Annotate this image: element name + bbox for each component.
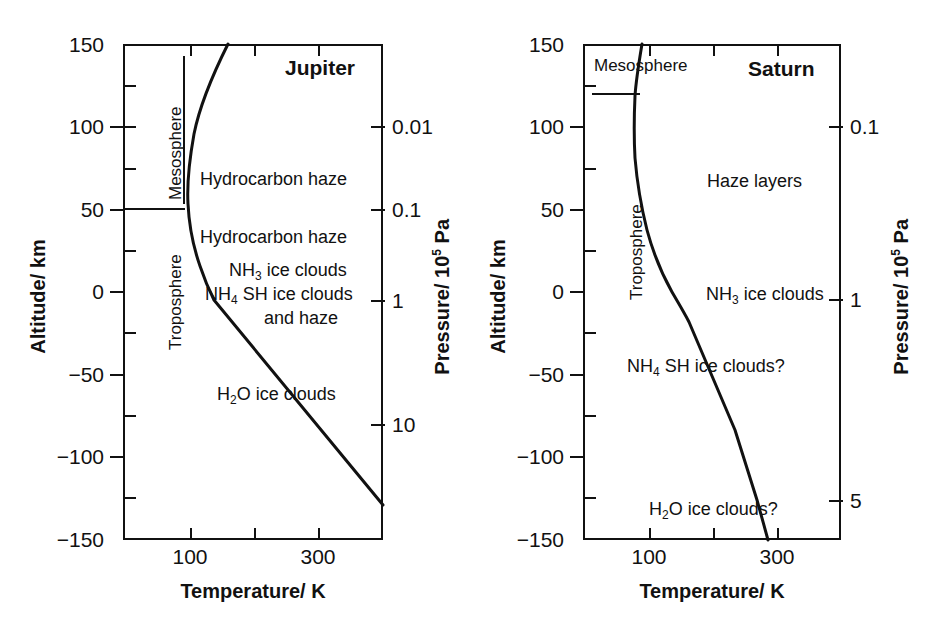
jupiter-nh3-subscript: 3: [255, 269, 262, 283]
saturn-nh4sh-subscript: 4: [653, 365, 660, 379]
saturn-nh3-formula: NH: [706, 284, 732, 304]
jupiter-label-hydrocarbon-haze-lower: Hydrocarbon haze: [200, 228, 347, 247]
jupiter-h2o-formula: H: [217, 384, 230, 404]
jupiter-label-and-haze: and haze: [264, 309, 338, 328]
jupiter-h2o-text: O ice clouds: [237, 384, 336, 404]
saturn-label-h2o-ice-clouds: H2O ice clouds?: [649, 500, 778, 519]
saturn-nh4sh-formula: NH: [627, 356, 653, 376]
jupiter-nh4sh-text: SH ice clouds: [238, 284, 353, 304]
saturn-h2o-formula: H: [649, 499, 662, 519]
saturn-nh3-subscript: 3: [732, 293, 739, 307]
jupiter-temperature-curve: [0, 0, 467, 633]
jupiter-nh3-text: ice clouds: [262, 260, 347, 280]
jupiter-nh4sh-formula: NH: [205, 284, 231, 304]
saturn-nh4sh-text: SH ice clouds?: [660, 356, 785, 376]
jupiter-label-hydrocarbon-haze-upper: Hydrocarbon haze: [200, 170, 347, 189]
jupiter-h2o-subscript: 2: [230, 393, 237, 407]
jupiter-label-h2o-ice-clouds: H2O ice clouds: [217, 385, 336, 404]
saturn-label-haze-layers: Haze layers: [707, 172, 802, 191]
jupiter-label-nh4sh-ice-clouds: NH4 SH ice clouds: [205, 285, 353, 304]
saturn-temperature-curve: [467, 0, 934, 633]
jupiter-label-nh3-ice-clouds: NH3 ice clouds: [229, 261, 347, 280]
jupiter-chart-panel: 150 100 50 0 −50 −100 −150 100 300 0.01 …: [0, 0, 467, 633]
saturn-label-nh4sh-ice-clouds: NH4 SH ice clouds?: [627, 357, 785, 376]
saturn-nh3-text: ice clouds: [739, 284, 824, 304]
jupiter-nh4sh-subscript: 4: [231, 293, 238, 307]
saturn-h2o-subscript: 2: [662, 508, 669, 522]
saturn-chart-panel: 150 100 50 0 −50 −100 −150 100 300 0.1 1…: [467, 0, 934, 633]
saturn-h2o-text: O ice clouds?: [669, 499, 778, 519]
jupiter-nh3-formula: NH: [229, 260, 255, 280]
saturn-label-nh3-ice-clouds: NH3 ice clouds: [706, 285, 824, 304]
